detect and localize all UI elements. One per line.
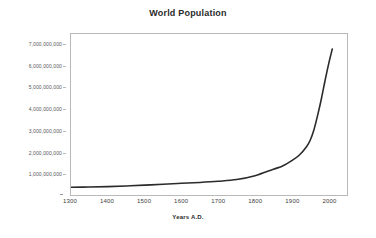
y-axis-baseline-tick: [60, 194, 63, 195]
y-tick-label: 1,000,000,000: [29, 171, 62, 177]
y-tick-mark: [63, 44, 66, 45]
x-tick-label: 1400: [100, 198, 114, 204]
y-tick-label: 5,000,000,000: [29, 84, 62, 90]
y-tick-mark: [63, 87, 66, 88]
x-tick-label: 1700: [211, 198, 225, 204]
x-tick-label: 1500: [137, 198, 151, 204]
y-tick-mark: [63, 66, 66, 67]
y-tick-label: 6,000,000,000: [29, 63, 62, 69]
y-tick-label: 2,000,000,000: [29, 150, 62, 156]
y-tick-mark: [63, 131, 66, 132]
population-line-svg: [71, 34, 347, 195]
y-tick-label: 4,000,000,000: [29, 106, 62, 112]
plot-area: [70, 33, 348, 196]
y-tick-mark: [63, 109, 66, 110]
y-axis: 7,000,000,0006,000,000,0005,000,000,0004…: [0, 33, 66, 196]
chart-title: World Population: [0, 8, 376, 18]
x-tick-label: 1800: [248, 198, 262, 204]
x-tick-label: 2000: [322, 198, 336, 204]
x-tick-label: 1900: [285, 198, 299, 204]
y-tick-label: 7,000,000,000: [29, 41, 62, 47]
x-tick-label: 1600: [174, 198, 188, 204]
y-tick-mark: [63, 153, 66, 154]
x-tick-label: 1300: [63, 198, 77, 204]
x-axis-title: Years A.D.: [0, 214, 376, 220]
x-axis: 13001400150016001700180019002000: [70, 198, 348, 210]
population-line: [71, 49, 332, 187]
y-tick-mark: [63, 174, 66, 175]
y-tick-label: 3,000,000,000: [29, 128, 62, 134]
chart-screenshot: World Population 7,000,000,0006,000,000,…: [0, 0, 376, 238]
